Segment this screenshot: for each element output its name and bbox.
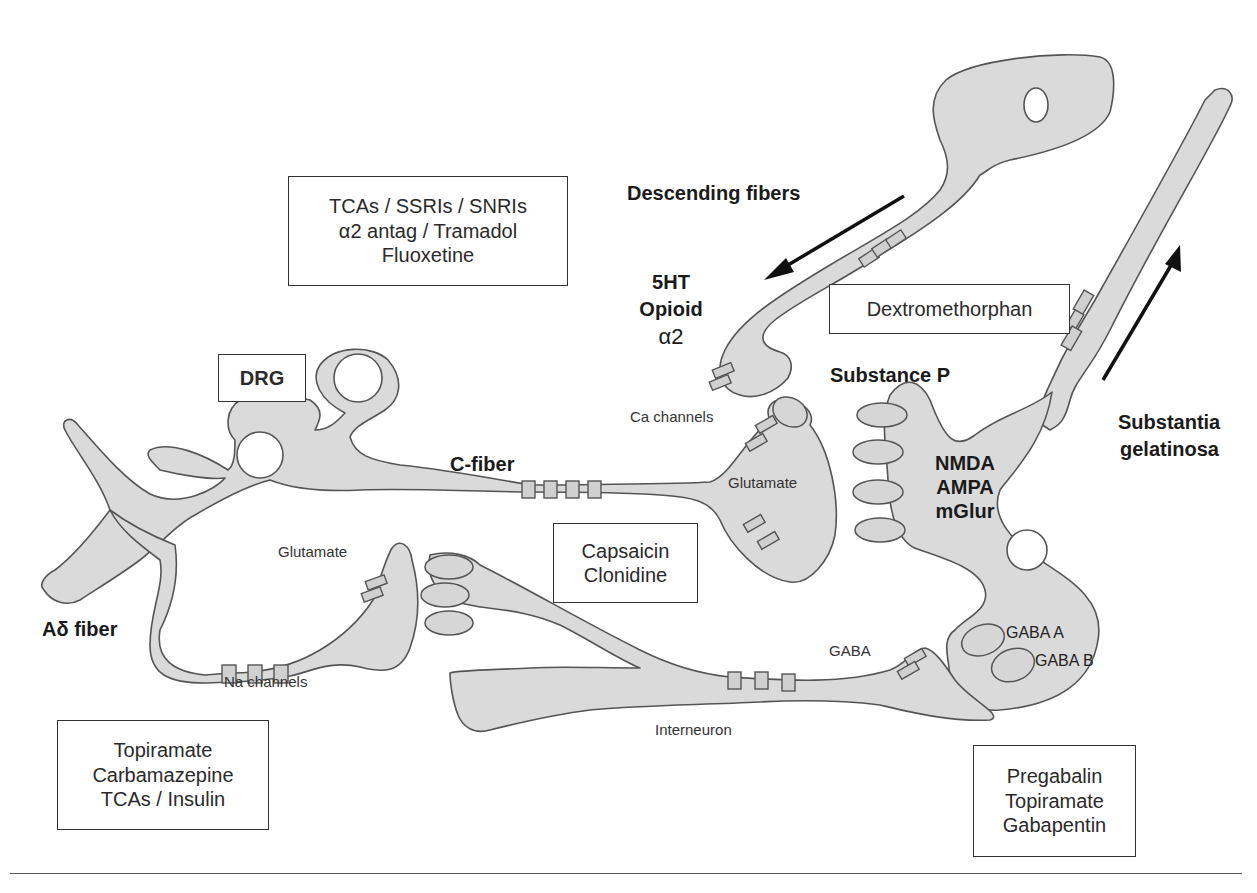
- interneuron: [429, 553, 994, 731]
- drug-line: TCAs / SSRIs / SNRIs: [289, 194, 567, 218]
- drug-line: Pregabalin: [974, 764, 1135, 788]
- interneuron-label: Interneuron: [655, 721, 732, 738]
- nmda-label: NMDA: [925, 452, 1005, 475]
- sodium-blockers-box: Topiramate Carbamazepine TCAs / Insulin: [57, 720, 269, 830]
- drug-line: TCAs / Insulin: [58, 787, 268, 811]
- gaba-a-label: GABA A: [1006, 624, 1064, 642]
- dextromethorphan-box: Dextromethorphan: [829, 284, 1070, 334]
- drug-line: Topiramate: [58, 738, 268, 762]
- drg-nucleus-2: [334, 354, 382, 402]
- drug-line: Carbamazepine: [58, 763, 268, 787]
- glutamate-c-label: Glutamate: [728, 474, 797, 491]
- drug-line: Dextromethorphan: [830, 297, 1069, 321]
- a-delta-fiber-label: Aδ fiber: [42, 618, 117, 641]
- mglur-label: mGlur: [925, 500, 1005, 523]
- na-channels-label: Na channels: [224, 673, 307, 690]
- calcium-blockers-box: Pregabalin Topiramate Gabapentin: [973, 745, 1136, 857]
- drug-line: Fluoxetine: [289, 243, 567, 267]
- drug-line: Topiramate: [974, 789, 1135, 813]
- drug-line: Gabapentin: [974, 813, 1135, 837]
- alpha2-label: α2: [631, 324, 711, 349]
- descending-neuron-soma: [720, 55, 1114, 397]
- substantia-label-line2: gelatinosa: [1120, 438, 1219, 461]
- bottom-divider: [10, 873, 1242, 874]
- 5ht-label: 5HT: [631, 271, 711, 294]
- dorsal-neuron-nucleus: [1007, 530, 1047, 570]
- gaba-label: GABA: [829, 642, 871, 659]
- antidepressants-box: TCAs / SSRIs / SNRIs α2 antag / Tramadol…: [288, 176, 568, 286]
- interneuron-receptors: [421, 555, 473, 635]
- drug-line: Capsaicin: [554, 539, 697, 563]
- drg-nucleus-1: [237, 432, 283, 478]
- capsaicin-box: Capsaicin Clonidine: [553, 523, 698, 603]
- soma-nucleus: [1024, 88, 1048, 122]
- glutamate-a-label: Glutamate: [278, 543, 347, 560]
- interneuron-channels: [728, 672, 795, 691]
- opioid-label: Opioid: [631, 298, 711, 321]
- substance-p-label: Substance P: [830, 364, 950, 387]
- ca-channels-label: Ca channels: [630, 408, 713, 425]
- drug-line: Clonidine: [554, 563, 697, 587]
- ampa-label: AMPA: [925, 476, 1005, 499]
- descending-fibers-label: Descending fibers: [627, 182, 800, 205]
- substantia-label-line1: Substantia: [1118, 411, 1220, 434]
- drg-label: DRG: [219, 366, 305, 390]
- gaba-b-label: GABA B: [1035, 652, 1094, 670]
- c-fiber-label: C-fiber: [450, 453, 514, 476]
- drg-box: DRG: [218, 354, 306, 402]
- drug-line: α2 antag / Tramadol: [289, 219, 567, 243]
